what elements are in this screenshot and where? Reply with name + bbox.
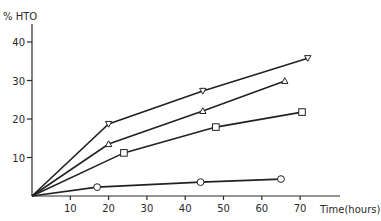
series-inverted-triangle [32, 56, 311, 196]
y-axis-title: % HTO [3, 11, 37, 22]
square-marker-icon [213, 124, 220, 131]
x-axis-title: Time(hours) [319, 204, 380, 215]
square-marker-icon [121, 150, 128, 157]
circle-marker-icon [278, 176, 285, 183]
x-tick-label: 20 [102, 203, 115, 214]
y-tick-label: 20 [12, 114, 25, 125]
y-tick-label: 30 [12, 76, 25, 87]
circle-marker-icon [94, 184, 101, 191]
square-marker-icon [299, 109, 306, 116]
circle-marker-icon [197, 179, 204, 186]
x-tick-label: 50 [217, 203, 230, 214]
x-tick-label: 40 [179, 203, 192, 214]
x-tick-label: 10 [64, 203, 77, 214]
y-tick-label: 40 [12, 37, 25, 48]
x-tick-label: 60 [255, 203, 268, 214]
series-line [32, 58, 308, 196]
x-tick-label: 30 [141, 203, 154, 214]
triangle-up-marker-icon [282, 78, 288, 84]
line-chart: % HTO Time(hours) 1020304050607010203040 [0, 0, 381, 221]
axes: % HTO Time(hours) [3, 11, 380, 215]
series-line [32, 179, 281, 196]
x-tick-label: 70 [294, 203, 307, 214]
series [32, 56, 311, 196]
y-tick-label: 10 [12, 153, 25, 164]
